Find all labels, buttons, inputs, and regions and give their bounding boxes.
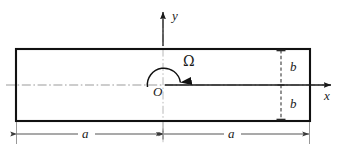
a-label-left: a [82,127,89,140]
x-axis-label: x [324,89,330,102]
y-axis-label: y [172,9,178,22]
a-label-right: a [228,127,235,140]
figure-canvas: y x O Ω b b a a [0,0,352,153]
origin-label: O [153,85,162,98]
b-label-bottom: b [290,97,297,110]
b-dimension-line [277,50,286,120]
b-label-top: b [290,60,297,73]
omega-label: Ω [183,54,195,68]
